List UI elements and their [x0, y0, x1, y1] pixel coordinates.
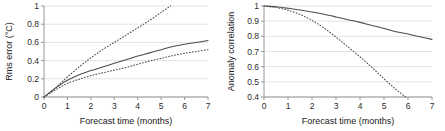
y-tick-label: 0.6	[247, 62, 259, 72]
x-tick-label: 2	[310, 101, 315, 111]
y-tick-label: 0.7	[247, 47, 259, 57]
x-tick-label: 0	[42, 101, 47, 111]
grid-lines	[44, 6, 208, 97]
x-axis-title: Forecast time (months)	[80, 116, 173, 126]
y-axis-ticks: 0.40.50.60.70.80.91	[247, 1, 264, 102]
y-tick-label: 0.8	[27, 19, 39, 29]
x-tick-label: 4	[358, 101, 363, 111]
series-line-lower-bound	[44, 50, 208, 97]
x-tick-label: 2	[88, 101, 93, 111]
y-tick-label: 0.2	[27, 74, 39, 84]
rms-error-chart-svg: 0123456700.20.40.60.81Forecast time (mon…	[0, 0, 222, 131]
y-tick-label: 0.6	[27, 37, 39, 47]
x-tick-label: 4	[135, 101, 140, 111]
x-tick-label: 6	[182, 101, 187, 111]
figure-container: 0123456700.20.40.60.81Forecast time (mon…	[0, 0, 445, 131]
x-tick-label: 1	[286, 101, 291, 111]
y-axis-ticks: 00.20.40.60.81	[27, 1, 44, 102]
series-line-model-forecast	[264, 6, 432, 39]
x-tick-label: 5	[159, 101, 164, 111]
x-tick-label: 7	[206, 101, 211, 111]
x-tick-label: 3	[334, 101, 339, 111]
y-axis-title-group: Rms error (°C)	[4, 22, 14, 81]
x-tick-label: 7	[430, 101, 435, 111]
y-tick-label: 0.4	[247, 92, 259, 102]
y-tick-label: 1	[254, 1, 259, 11]
x-tick-label: 3	[112, 101, 117, 111]
x-tick-label: 0	[262, 101, 267, 111]
data-series-group	[44, 6, 208, 97]
y-tick-label: 0	[34, 92, 39, 102]
x-axis-title: Forecast time (months)	[302, 116, 395, 126]
x-axis-ticks: 01234567	[262, 97, 435, 111]
chart-panel-anomaly-correlation: 012345670.40.50.60.70.80.91Forecast time…	[222, 0, 445, 131]
y-tick-label: 0.8	[247, 31, 259, 41]
y-axis-title: Anomaly correlation	[226, 12, 236, 92]
x-tick-label: 1	[65, 101, 70, 111]
y-tick-label: 1	[34, 1, 39, 11]
x-tick-label: 6	[406, 101, 411, 111]
y-axis-title-group: Anomaly correlation	[226, 12, 236, 92]
chart-panel-rms-error: 0123456700.20.40.60.81Forecast time (mon…	[0, 0, 222, 131]
y-tick-label: 0.4	[27, 56, 39, 66]
series-line-model-forecast	[44, 41, 208, 97]
y-tick-label: 0.5	[247, 77, 259, 87]
x-axis-ticks: 01234567	[42, 97, 211, 111]
y-tick-label: 0.9	[247, 16, 259, 26]
anomaly-correlation-chart-svg: 012345670.40.50.60.70.80.91Forecast time…	[222, 0, 445, 131]
x-tick-label: 5	[382, 101, 387, 111]
y-axis-title: Rms error (°C)	[4, 22, 14, 81]
